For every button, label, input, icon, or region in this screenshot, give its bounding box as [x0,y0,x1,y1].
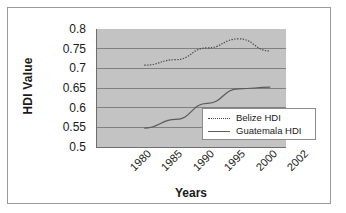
y-tick-label: 0.65 [63,82,86,94]
chart-legend: Belize HDI Guatemala HDI [202,108,316,140]
y-tick-label: 0.8 [69,23,86,35]
x-axis-title: Years [96,186,286,200]
x-tick-label: 2000 [254,148,279,173]
y-axis-title: HDI Value [18,30,38,142]
series-line-1 [144,39,270,65]
legend-item-label: Belize HDI [236,112,281,123]
legend-item-label: Guatemala HDI [236,125,301,136]
y-axis-tick-labels: 0.80.750.70.650.60.550.5 [42,22,90,154]
y-tick-label: 0.55 [63,121,86,133]
x-tick-label: 1985 [159,148,184,173]
y-tick-label: 0.6 [69,102,86,114]
chart-frame: HDI Value 0.80.750.70.650.60.550.5 19801… [7,7,331,204]
dotted-line-swatch-icon [206,113,232,123]
solid-line-swatch-icon [206,126,232,136]
x-tick-label: 1990 [191,148,216,173]
y-axis-title-text: HDI Value [21,57,35,114]
legend-item-belize: Belize HDI [206,111,312,124]
y-tick-label: 0.75 [63,43,86,55]
legend-item-guatemala: Guatemala HDI [206,124,312,137]
y-tick-label: 0.7 [69,62,86,74]
x-tick-label: 1980 [128,148,153,173]
x-tick-label: 1995 [222,148,247,173]
x-axis-tick-labels: 198019851990199520002002 [68,148,308,182]
x-tick-label: 2002 [285,148,310,173]
